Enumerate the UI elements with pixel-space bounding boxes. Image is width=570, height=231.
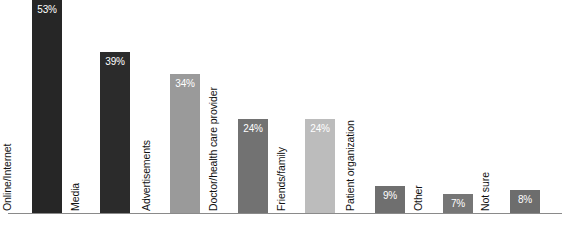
bar-advertisements[interactable]: 34% [170,74,200,213]
category-label-other: Other [413,185,424,211]
bar-patient-organization[interactable]: 9% [375,186,405,213]
category-label-media: Media [70,183,81,211]
bar-media[interactable]: 39% [100,52,130,213]
bar-value-label: 24% [305,123,335,134]
bar-not-sure[interactable]: 8% [510,190,540,213]
bar-value-label: 9% [375,190,405,201]
category-label-friends-family: Friends/family [276,147,287,211]
bar-friends-family[interactable]: 24% [305,119,335,213]
category-label-doctor-health-care-provider: Doctor/health care provider [208,87,219,211]
bar-other[interactable]: 7% [443,194,473,213]
bar-value-label: 24% [238,123,268,134]
bar-chart: 53% 39% 34% 24% 24% 9% 7% 8% Online/Inte… [0,0,570,231]
bar-online-internet[interactable]: 53% [32,0,62,213]
bar-value-label: 53% [32,4,62,15]
category-label-patient-organization: Patient organization [345,120,356,211]
plot-area: 53% 39% 34% 24% 24% 9% 7% 8% Online/Inte… [0,0,570,231]
bar-doctor-health-care-provider[interactable]: 24% [238,119,268,213]
x-axis-line [8,213,562,214]
category-label-advertisements: Advertisements [141,140,152,211]
category-label-not-sure: Not sure [480,172,491,211]
bar-value-label: 39% [100,56,130,67]
bar-value-label: 7% [443,198,473,209]
category-label-online-internet: Online/Internet [2,144,13,211]
bar-value-label: 34% [170,78,200,89]
bar-value-label: 8% [510,194,540,205]
